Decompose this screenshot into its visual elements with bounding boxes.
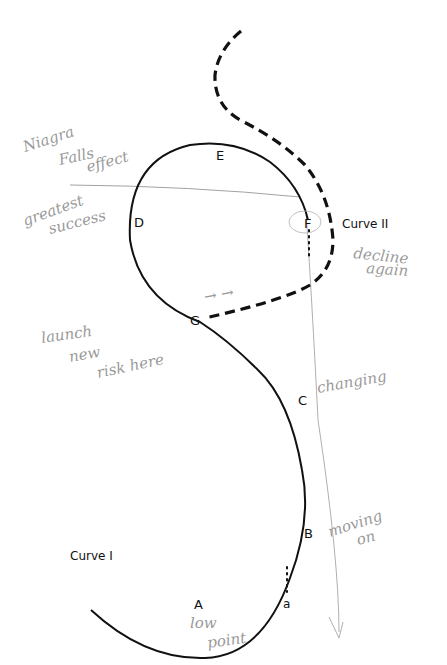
point-a-lower: a [283,597,290,611]
sigmoid-diagram: E D F G C B A a Curve II Curve I Niagra … [0,0,447,665]
note-moving-2: on [355,527,378,549]
curve-2 [205,31,333,318]
curve-2-label: Curve II [342,217,388,231]
note-launch-2: new [68,343,102,366]
point-d: D [134,215,144,230]
curve-1-label: Curve I [70,549,113,563]
note-arrows: → → [203,283,236,306]
note-low-2: point [206,629,248,652]
point-g: G [190,313,200,328]
point-e: E [216,148,224,163]
note-decline-2: again [366,259,409,280]
moving-on-arrowhead [329,617,343,638]
point-c: C [298,393,307,408]
curve-1 [91,143,308,658]
note-launch-1: launch [40,322,93,347]
note-low-1: low [190,614,217,632]
greatest-success-line [70,185,300,197]
point-f: F [304,216,311,231]
note-launch-3: risk here [95,350,165,382]
point-a: A [194,597,203,612]
note-changing: changing [316,367,388,397]
point-b: B [304,526,313,541]
